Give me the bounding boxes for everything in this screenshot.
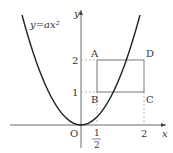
y-axis-label: y [73,8,80,19]
point-b-label: B [91,94,98,105]
x-axis-arrow-icon [161,123,166,127]
y-tick-2: 2 [72,55,78,66]
point-d-label: D [146,48,154,59]
origin-label: O [70,128,78,139]
curve-label: y=ax² [29,19,60,30]
point-a-label: A [90,48,99,59]
x-axis-label: x [162,128,168,139]
point-c-label: C [146,94,154,105]
y-tick-1: 1 [72,87,78,98]
x-tick-half-denominator: 2 [94,140,100,150]
x-tick-half-numerator: 1 [94,128,100,138]
parabola-diagram: y=ax² y x O A B C D 2 1 1 2 2 [0,0,173,153]
x-tick-2: 2 [141,128,147,139]
